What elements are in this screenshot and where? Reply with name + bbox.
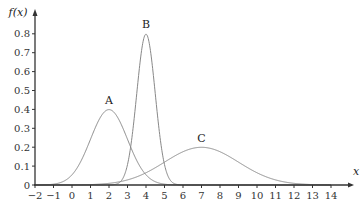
curve-label-a: A [104,94,114,107]
curve-label-c: C [197,132,205,145]
x-tick-label: 9 [235,190,241,201]
x-tick-label: 12 [288,190,301,201]
x-tick-label: 4 [143,190,149,201]
y-axis-title: f(x) [8,6,28,19]
labels: ABCx−2−101234567891011121314f(x)00.10.20… [8,6,360,201]
curve-c [35,147,331,185]
x-axis-arrow-icon [348,183,354,188]
x-tick-label: 10 [251,190,264,201]
curve-a [35,110,331,185]
y-tick-label: 0 [24,180,30,191]
y-tick-label: 0.7 [14,47,30,58]
x-tick-label: 3 [124,190,130,201]
y-tick-label: 0.5 [14,85,30,96]
x-tick-label: −2 [28,190,43,201]
x-tick-label: 11 [269,190,282,201]
y-tick-label: 0.4 [14,104,30,115]
x-tick-label: 14 [325,190,338,201]
y-tick-label: 0.2 [14,142,30,153]
y-tick-label: 0.3 [14,123,30,134]
y-tick-label: 0.1 [14,161,30,172]
x-tick-label: 2 [106,190,112,201]
x-tick-label: 13 [306,190,319,201]
curves [35,34,331,185]
x-tick-label: −1 [46,190,61,201]
y-tick-label: 0.6 [14,66,30,77]
x-tick-label: 0 [69,190,75,201]
y-axis-arrow-icon [33,9,38,16]
x-tick-label: 8 [217,190,223,201]
x-tick-label: 6 [180,190,186,201]
chart: ABCx−2−101234567891011121314f(x)00.10.20… [0,0,360,208]
x-axis-title: x [353,165,360,178]
y-tick-label: 0.8 [14,28,30,39]
x-tick-label: 1 [87,190,93,201]
curve-label-b: B [142,18,150,31]
axes [32,9,354,188]
curve-b [35,34,331,185]
x-tick-label: 5 [161,190,167,201]
x-tick-label: 7 [198,190,204,201]
